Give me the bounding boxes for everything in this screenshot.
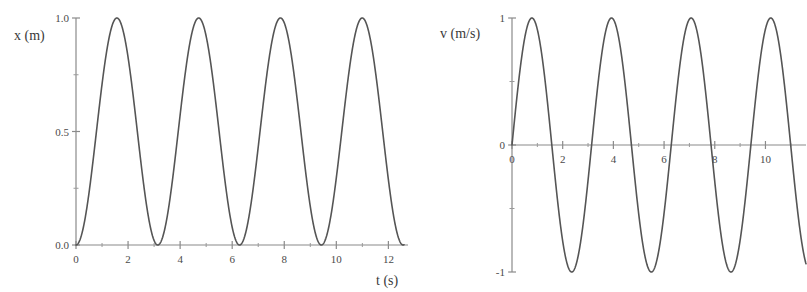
x-tick-label: 8	[712, 153, 718, 165]
position-curve	[76, 18, 404, 245]
position-tick-labels: 0246810120.00.51.0	[55, 12, 394, 265]
x-tick-label: 4	[611, 153, 617, 165]
x-tick-label: 8	[282, 253, 288, 265]
y-tick-label: -1	[496, 266, 505, 278]
x-tick-label: 4	[177, 253, 183, 265]
position-axes	[76, 18, 408, 246]
velocity-axes	[512, 18, 806, 272]
two-panel-oscillation-figure: 0246810120.00.51.0 x (m) t (s) 0246810-1…	[0, 0, 807, 292]
x-tick-label: 0	[509, 153, 515, 165]
position-plot-svg: 0246810120.00.51.0 x (m) t (s)	[0, 0, 410, 292]
x-tick-label: 12	[383, 253, 394, 265]
position-x-axis-title: t (s)	[376, 273, 399, 289]
y-tick-label: 1	[500, 12, 506, 24]
velocity-y-axis-title: v (m/s)	[440, 26, 480, 42]
velocity-vs-time-chart: 0246810-101 v (m/s)	[410, 0, 807, 292]
x-tick-label: 6	[661, 153, 667, 165]
y-tick-label: 0	[500, 139, 506, 151]
x-tick-label: 6	[229, 253, 235, 265]
x-tick-label: 2	[125, 253, 131, 265]
y-tick-label: 0.0	[55, 239, 69, 251]
x-tick-label: 10	[331, 253, 343, 265]
x-tick-label: 0	[73, 253, 79, 265]
y-tick-label: 1.0	[55, 12, 69, 24]
y-tick-label: 0.5	[55, 126, 69, 138]
velocity-plot-svg: 0246810-101 v (m/s)	[410, 0, 807, 292]
x-tick-label: 2	[560, 153, 566, 165]
position-vs-time-chart: 0246810120.00.51.0 x (m) t (s)	[0, 0, 410, 292]
x-tick-label: 10	[760, 153, 772, 165]
position-y-axis-title: x (m)	[14, 28, 45, 44]
